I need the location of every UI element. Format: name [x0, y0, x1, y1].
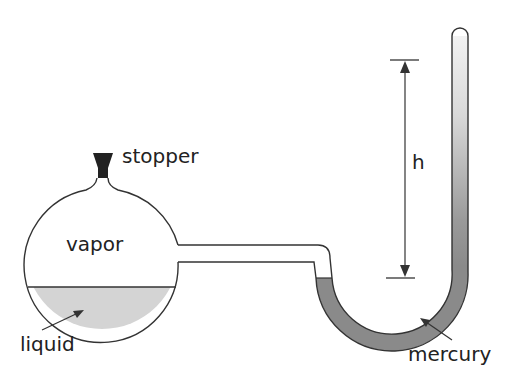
- stopper-icon: [93, 153, 113, 168]
- stopper-label: stopper: [122, 146, 198, 166]
- liquid-label: liquid: [20, 334, 75, 354]
- mercury-label: mercury: [408, 344, 491, 364]
- diagram-drawing: [0, 0, 526, 387]
- height-label: h: [412, 152, 425, 172]
- mercury-column: [452, 36, 468, 266]
- liquid-region: [20, 287, 190, 337]
- manometer-diagram: stopper vapor liquid h mercury: [0, 0, 526, 387]
- vapor-label: vapor: [66, 234, 123, 254]
- u-tube-inner: [316, 28, 468, 351]
